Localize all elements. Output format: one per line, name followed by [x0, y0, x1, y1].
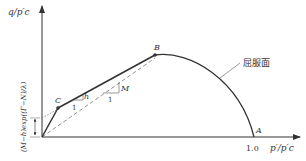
- segment-OC: [42, 108, 58, 137]
- label-C: C: [55, 96, 61, 105]
- x-tick-1: 1.0: [246, 144, 259, 153]
- label-run-1a: 1: [72, 104, 76, 112]
- label-run-1b: 1: [108, 96, 112, 104]
- slope-triangle-M: [103, 82, 119, 93]
- critical-state-diagram: q/p′c p′/p′c 1.0 A B C h M 1 1 屈服面 (M−h)…: [0, 0, 306, 161]
- x-axis-label: p′/p′c: [270, 143, 294, 153]
- yield-surface-leader: [220, 63, 240, 78]
- label-B: B: [153, 43, 160, 52]
- intercept-label: (M−h)exp((Γ−N)/λ): [20, 82, 28, 152]
- point-B: [153, 53, 157, 57]
- label-h: h: [84, 92, 89, 101]
- y-axis-label: q/p′c: [8, 7, 30, 17]
- yield-surface-label: 屈服面: [243, 58, 270, 68]
- label-M: M: [120, 84, 130, 93]
- point-C: [56, 106, 60, 110]
- yield-surface-arc: [155, 54, 254, 137]
- label-A: A: [255, 126, 262, 135]
